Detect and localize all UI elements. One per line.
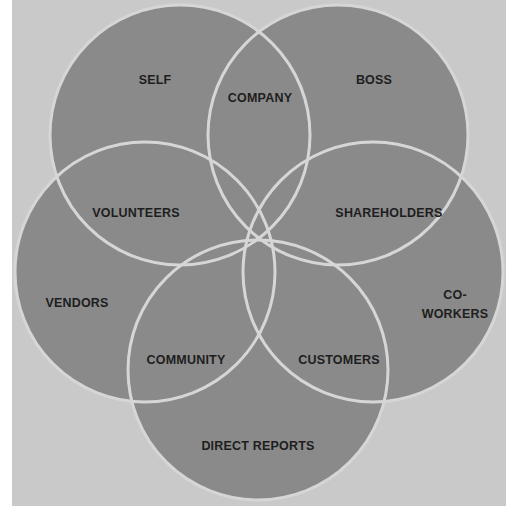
label-coworkers: CO- WORKERS [422, 286, 489, 324]
label-direct-reports: DIRECT REPORTS [201, 437, 314, 456]
circle-fills [15, 5, 503, 500]
label-coworkers-line2: WORKERS [422, 305, 489, 324]
label-vendors: VENDORS [45, 294, 108, 313]
label-boss: BOSS [356, 71, 392, 90]
label-customers: CUSTOMERS [298, 351, 379, 370]
label-shareholders: SHAREHOLDERS [335, 204, 442, 223]
label-community: COMMUNITY [147, 351, 226, 370]
label-coworkers-line1: CO- [422, 286, 489, 305]
label-volunteers: VOLUNTEERS [92, 204, 179, 223]
label-self: SELF [139, 71, 172, 90]
label-company: COMPANY [228, 89, 292, 108]
